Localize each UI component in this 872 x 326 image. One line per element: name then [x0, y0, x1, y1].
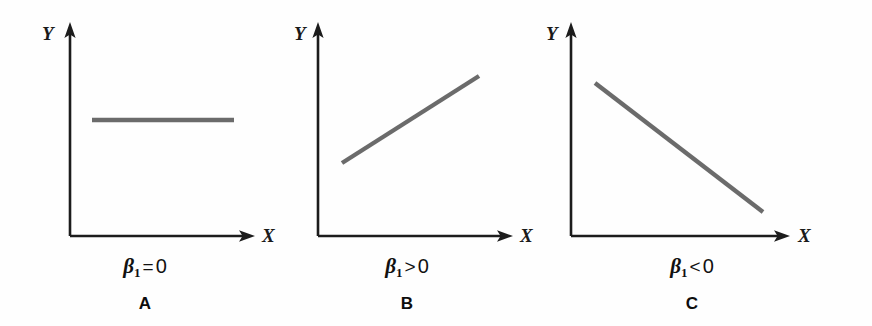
- x-axis-c: [571, 230, 790, 242]
- equation-value-b: 0: [418, 255, 429, 277]
- panel-letter-c: C: [536, 295, 848, 312]
- x-axis-label-b: X: [520, 226, 533, 245]
- x-axis-b: [318, 230, 513, 242]
- panel-a: Y X β1=0 A: [0, 0, 290, 326]
- equation-operator-c: <: [688, 256, 703, 277]
- beta-symbol-a: β: [123, 254, 134, 278]
- beta-subscript-a: 1: [134, 265, 141, 280]
- panel-letter-a: A: [0, 295, 290, 312]
- beta-symbol-b: β: [385, 254, 396, 278]
- panel-letter-b: B: [272, 295, 542, 312]
- panel-b: Y X β1>0 B: [290, 0, 560, 326]
- beta-subscript-b: 1: [396, 265, 403, 280]
- beta-symbol-c: β: [670, 254, 681, 278]
- equation-operator-a: =: [141, 256, 156, 277]
- y-axis-label-c: Y: [546, 24, 558, 43]
- x-axis-label-a: X: [262, 226, 275, 245]
- beta-subscript-c: 1: [681, 265, 688, 280]
- equation-value-a: 0: [156, 255, 167, 277]
- y-axis-c: [565, 22, 576, 236]
- regression-slope-figure: Y X β1=0 A Y X β1>0 B: [0, 0, 872, 326]
- y-axis-label-a: Y: [42, 24, 54, 43]
- y-axis-a: [64, 22, 75, 236]
- regression-line-c: [595, 83, 763, 212]
- y-axis-label-b: Y: [294, 24, 306, 43]
- x-axis-a: [70, 230, 255, 242]
- equation-operator-b: >: [403, 256, 418, 277]
- equation-label-b: β1>0: [272, 256, 542, 279]
- equation-label-c: β1<0: [536, 256, 848, 279]
- regression-line-b: [342, 76, 479, 163]
- x-axis-label-c: X: [798, 226, 811, 245]
- equation-value-c: 0: [703, 255, 714, 277]
- panel-c: Y X β1<0 C: [560, 0, 872, 326]
- y-axis-b: [312, 22, 323, 236]
- equation-label-a: β1=0: [0, 256, 290, 279]
